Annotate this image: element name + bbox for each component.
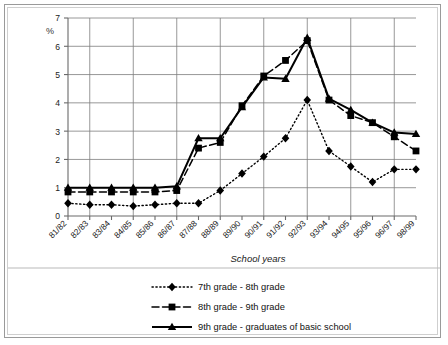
legend-marker: [168, 283, 176, 291]
y-tick-label: 3: [55, 127, 60, 137]
x-tick-label: 83/84: [90, 218, 112, 240]
x-tick-label-group: 83/84: [90, 218, 112, 240]
legend-item: 9th grade - graduates of basic school: [152, 322, 351, 332]
x-tick-label: 93/94: [308, 218, 330, 240]
legend-item: 8th grade - 9th grade: [152, 302, 285, 312]
x-tick-label-group: 89/90: [221, 218, 243, 240]
x-tick-label-group: 91/92: [264, 218, 286, 240]
data-point: [390, 165, 398, 173]
line-chart-svg: 0123456781/8282/8383/8484/8585/8686/8787…: [0, 0, 448, 345]
x-axis-title: School years: [231, 253, 286, 264]
x-tick-label-group: 85/86: [134, 218, 156, 240]
x-tick-label: 94/95: [329, 218, 351, 240]
y-tick-label: 5: [55, 70, 60, 80]
x-tick-label-group: 98/99: [395, 218, 417, 240]
series-diamond: [64, 96, 420, 210]
y-tick-label: 7: [55, 13, 60, 23]
y-tick-label: 6: [55, 42, 60, 52]
x-tick-label: 96/97: [373, 218, 395, 240]
data-point: [282, 57, 289, 64]
series-triangle: [64, 34, 420, 191]
legend-label: 7th grade - 8th grade: [198, 282, 285, 292]
x-tick-label-group: 82/83: [68, 218, 90, 240]
x-tick-label-group: 88/89: [199, 218, 221, 240]
data-point: [412, 165, 420, 173]
x-tick-label-group: 95/96: [351, 218, 373, 240]
data-point: [173, 199, 181, 207]
data-point: [86, 200, 94, 208]
data-point: [64, 199, 72, 207]
x-tick-label-group: 93/94: [308, 218, 330, 240]
x-tick-label: 98/99: [395, 218, 417, 240]
x-tick-label: 90/91: [242, 218, 264, 240]
data-point: [129, 202, 137, 210]
x-tick-label: 84/85: [112, 218, 134, 240]
x-tick-label-group: 94/95: [329, 218, 351, 240]
legend-label: 9th grade - graduates of basic school: [198, 322, 351, 332]
data-point: [195, 199, 203, 207]
x-tick-label-group: 81/82: [47, 218, 69, 240]
y-tick-label: 1: [55, 183, 60, 193]
x-tick-label-group: 96/97: [373, 218, 395, 240]
x-tick-label: 95/96: [351, 218, 373, 240]
x-tick-label: 88/89: [199, 218, 221, 240]
data-point: [108, 200, 116, 208]
data-point: [369, 178, 377, 186]
x-tick-label-group: 86/87: [155, 218, 177, 240]
chart-plot-area: 0123456781/8282/8383/8484/8585/8686/8787…: [0, 0, 448, 345]
data-point: [347, 112, 354, 119]
x-tick-label: 89/90: [221, 218, 243, 240]
series-line: [68, 100, 416, 206]
x-tick-label: 91/92: [264, 218, 286, 240]
x-tick-label-group: 90/91: [242, 218, 264, 240]
data-point: [325, 147, 333, 155]
data-point: [347, 162, 355, 170]
y-tick-label: 4: [55, 98, 60, 108]
series-line: [68, 41, 416, 192]
chart-legend: 7th grade - 8th grade8th grade - 9th gra…: [152, 282, 351, 332]
data-point: [151, 200, 159, 208]
x-tick-label-group: 87/88: [177, 218, 199, 240]
legend-marker: [169, 304, 176, 311]
series-line: [68, 38, 416, 188]
y-tick-label: 2: [55, 155, 60, 165]
data-point: [413, 148, 420, 155]
x-tick-label-group: 92/93: [286, 218, 308, 240]
x-tick-label: 87/88: [177, 218, 199, 240]
x-tick-label: 85/86: [134, 218, 156, 240]
x-tick-label: 81/82: [47, 218, 69, 240]
x-tick-label: 92/93: [286, 218, 308, 240]
legend-item: 7th grade - 8th grade: [152, 282, 285, 292]
legend-label: 8th grade - 9th grade: [198, 302, 285, 312]
x-tick-label-group: 84/85: [112, 218, 134, 240]
x-tick-label: 82/83: [68, 218, 90, 240]
x-tick-label: 86/87: [155, 218, 177, 240]
